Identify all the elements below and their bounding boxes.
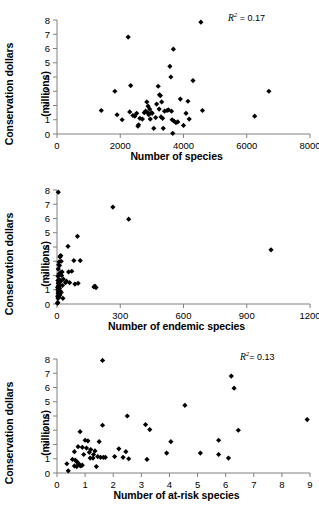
data-point [252, 114, 257, 119]
data-point [187, 116, 192, 121]
data-point [100, 358, 105, 363]
data-point [268, 247, 273, 252]
data-point [216, 452, 221, 457]
y-tick-label: 8 [45, 354, 50, 365]
scatter-plot-at-risk: 0123456789012345678 [0, 339, 319, 509]
y-tick-label: 8 [45, 185, 50, 196]
y-tick-label: 2 [45, 439, 50, 450]
data-point [183, 111, 188, 116]
y-tick-label: 1 [45, 453, 50, 464]
data-point [154, 101, 159, 106]
data-point [171, 47, 176, 52]
y-tick-label: 0 [45, 129, 50, 140]
data-point [112, 89, 117, 94]
data-point [94, 464, 99, 469]
y-tick-label: 6 [45, 213, 50, 224]
data-point [148, 116, 153, 121]
chart-panel-endemic: Conservation dollars (millions) 03006009… [0, 170, 319, 340]
data-point [88, 455, 93, 460]
data-point [143, 422, 148, 427]
data-point [190, 78, 195, 83]
y-tick-label: 3 [45, 86, 50, 97]
data-point [81, 452, 86, 457]
data-point-group [64, 358, 310, 474]
data-point [120, 117, 125, 122]
y-tick-label: 5 [45, 227, 50, 238]
data-point [116, 446, 121, 451]
y-tick-label: 3 [45, 425, 50, 436]
data-point [198, 450, 203, 455]
x-axis-label: Number of endemic species [0, 320, 319, 332]
data-point [168, 74, 173, 79]
data-point [151, 126, 156, 131]
data-point [157, 106, 162, 111]
data-point [236, 428, 241, 433]
data-point [80, 445, 85, 450]
y-tick-label: 6 [45, 43, 50, 54]
y-tick-label: 4 [45, 242, 50, 253]
data-point [126, 217, 131, 222]
data-point [168, 439, 173, 444]
data-point [178, 96, 183, 101]
y-tick-label: 6 [45, 382, 50, 393]
data-point [77, 429, 82, 434]
data-point [185, 99, 190, 104]
y-tick-label: 0 [45, 299, 50, 310]
y-tick-label: 1 [45, 114, 50, 125]
data-point [128, 83, 133, 88]
chart-panel-at-risk: Conservation dollars (millions) 01234567… [0, 339, 319, 509]
data-point [229, 374, 234, 379]
r-squared-annotation: R2 = 0.17 [228, 11, 265, 23]
y-tick-label: 0 [45, 468, 50, 479]
data-point [156, 84, 161, 89]
data-point [72, 449, 77, 454]
data-point [305, 417, 310, 422]
data-point [75, 444, 80, 449]
data-point [84, 445, 89, 450]
data-point [64, 461, 69, 466]
y-tick-label: 3 [45, 256, 50, 267]
figure-root: { "figure": { "panel_count": 3, "marker_… [0, 0, 319, 509]
data-point [112, 454, 117, 459]
data-point [144, 99, 149, 104]
data-point [159, 99, 164, 104]
data-point [97, 439, 102, 444]
y-tick-label: 1 [45, 284, 50, 295]
data-point [100, 423, 105, 428]
data-point [126, 35, 131, 40]
data-point [123, 449, 128, 454]
data-point [110, 205, 115, 210]
y-tick-label: 4 [45, 72, 50, 83]
data-point [164, 450, 169, 455]
data-point [120, 455, 125, 460]
data-point [161, 126, 166, 131]
data-point [65, 244, 70, 249]
data-point [153, 115, 158, 120]
y-tick-label: 4 [45, 411, 50, 422]
y-tick-label: 5 [45, 396, 50, 407]
data-point [144, 457, 149, 462]
y-tick-label: 7 [45, 199, 50, 210]
y-tick-label: 2 [45, 100, 50, 111]
data-point [78, 258, 83, 263]
data-point-group [99, 20, 272, 136]
scatter-plot-endemic: 03006009001200012345678 [0, 170, 319, 340]
data-point [75, 234, 80, 239]
data-point [226, 455, 231, 460]
data-point [266, 89, 271, 94]
data-point [71, 258, 76, 263]
data-point [125, 413, 130, 418]
data-point [114, 112, 119, 117]
data-point [232, 386, 237, 391]
chart-panel-species: Conservation dollars (millions) 02000400… [0, 0, 319, 170]
data-point [216, 438, 221, 443]
y-tick-label: 8 [45, 15, 50, 26]
data-point [99, 108, 104, 113]
data-point [182, 403, 187, 408]
data-point [170, 131, 175, 136]
x-axis-label: Number of at-risk species [0, 489, 319, 501]
data-point [147, 427, 152, 432]
y-tick-label: 7 [45, 368, 50, 379]
y-tick-label: 5 [45, 57, 50, 68]
data-point [167, 64, 172, 69]
